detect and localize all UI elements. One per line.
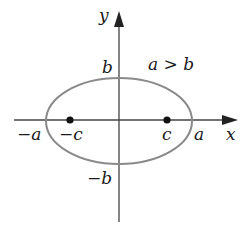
vertex-label-neg-b: −b: [87, 168, 112, 188]
focus-left: [66, 116, 73, 123]
vertex-label-b: b: [102, 57, 113, 77]
vertex-label-a: a: [194, 124, 204, 144]
focus-right: [163, 116, 170, 123]
condition-label: a > b: [148, 54, 194, 74]
vertex-label-neg-a: −a: [17, 124, 41, 144]
x-axis-label: x: [226, 124, 236, 144]
y-axis-arrow-icon: [114, 11, 124, 27]
ellipse-diagram: y x a > b b −b a −a c −c: [0, 0, 247, 227]
y-axis-label: y: [98, 5, 109, 25]
focus-label-neg-c: −c: [59, 124, 83, 144]
focus-label-c: c: [162, 124, 172, 144]
